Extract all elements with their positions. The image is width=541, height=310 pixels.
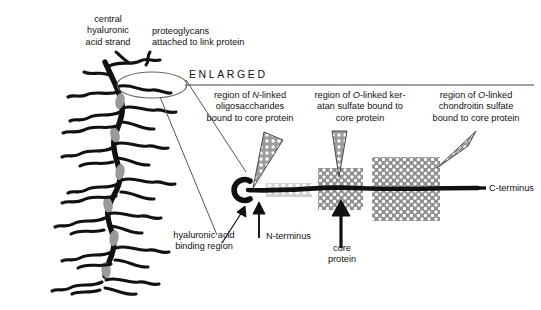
- label-region-chondroitin-sulfate: region of O-linked chondroitin sulfate b…: [416, 90, 536, 124]
- figure-canvas: central hyaluronic acid strand proteogly…: [0, 0, 541, 310]
- label-c-terminus: C-terminus: [489, 183, 541, 194]
- label-enlarged: ENLARGED: [189, 68, 268, 80]
- callout-pointers: [253, 131, 476, 188]
- label-core-protein: core protein: [315, 243, 369, 266]
- enlarged-core-protein: [234, 157, 478, 221]
- label-region-n-linked: region of N-linked oligosaccharides boun…: [190, 90, 310, 124]
- region-keratan-italic: O: [353, 90, 360, 100]
- region-n-linked-pre: region of: [214, 90, 252, 100]
- label-proteoglycans-link-protein: proteoglycans attached to link protein: [152, 26, 312, 49]
- pointer-n-linked-icon: [253, 132, 283, 188]
- label-region-keratan-sulfate: region of O-linked ker- atan sulfate bou…: [300, 90, 420, 124]
- core-protein-backbone: [248, 188, 478, 191]
- label-hyaluronic-acid-binding-region: hyaluronic acid binding region: [152, 230, 256, 253]
- region-n-linked-italic: N: [252, 90, 259, 100]
- proteoglycan-branches: [52, 59, 176, 294]
- region-keratan-pre: region of: [315, 90, 353, 100]
- proteoglycan-aggregate: [52, 59, 187, 294]
- pointer-chondroitin-icon: [437, 131, 476, 168]
- region-chondroitin-pre: region of: [440, 90, 478, 100]
- label-central-hyaluronic-acid-strand: central hyaluronic acid strand: [60, 14, 156, 48]
- label-n-terminus: N-terminus: [266, 231, 346, 242]
